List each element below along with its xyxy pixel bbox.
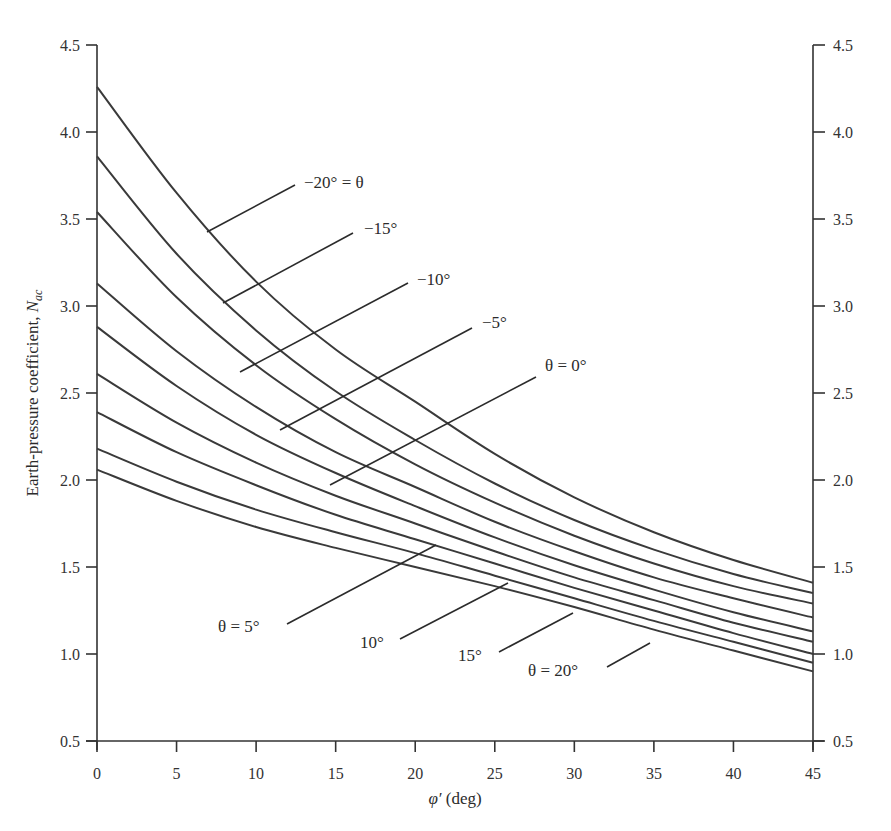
leader-m5: [280, 328, 472, 430]
y-tick-label-left: 2.5: [60, 385, 80, 402]
y-tick-label-right: 3.0: [833, 298, 853, 315]
y-tick-label-left: 4.0: [60, 124, 80, 141]
curve-series-7: [97, 449, 813, 663]
curve-series-6: [97, 412, 813, 654]
curve-series-1: [97, 156, 813, 593]
y-tick-label-right: 4.0: [833, 124, 853, 141]
left-y-ticks: 0.51.01.52.02.53.03.54.04.5: [60, 37, 97, 750]
curve-series-8: [97, 470, 813, 672]
label-theta-m10: −10°: [417, 270, 450, 289]
x-axis-title-symbol: φ′: [428, 789, 441, 808]
curve-group: [97, 87, 813, 672]
x-tick-label: 15: [328, 765, 344, 782]
leader-m10: [240, 283, 408, 372]
x-axis-title: φ′ (deg): [428, 789, 481, 808]
leader-0: [330, 377, 536, 485]
x-tick-label: 40: [725, 765, 741, 782]
y-axis-title-subscript: ac: [31, 289, 45, 301]
y-tick-label-right: 2.5: [833, 385, 853, 402]
y-tick-label-right: 0.5: [833, 733, 853, 750]
curve-series-0: [97, 87, 813, 583]
y-axis-title: Earth-pressure coefficient, Nac: [23, 289, 45, 497]
label-theta-0: θ = 0°: [545, 356, 587, 375]
x-tick-label: 5: [173, 765, 181, 782]
y-tick-label-left: 3.5: [60, 211, 80, 228]
label-theta-m5: −5°: [482, 313, 507, 332]
axes: [86, 45, 824, 750]
leader-10: [400, 583, 508, 639]
x-tick-label: 20: [407, 765, 423, 782]
x-tick-label: 10: [248, 765, 264, 782]
y-tick-label-right: 2.0: [833, 472, 853, 489]
y-tick-label-left: 1.5: [60, 559, 80, 576]
y-tick-label-left: 3.0: [60, 298, 80, 315]
curve-series-3: [97, 283, 813, 617]
earth-pressure-chart: 0.51.01.52.02.53.03.54.04.5 0.51.01.52.0…: [0, 0, 891, 831]
label-theta-10: 10°: [360, 633, 384, 652]
x-axis-title-unit: (deg): [442, 789, 482, 808]
x-tick-label: 45: [805, 765, 821, 782]
label-theta-m15: −15°: [364, 219, 397, 238]
x-ticks: 051015202530354045: [93, 741, 821, 782]
curve-series-5: [97, 374, 813, 642]
y-tick-label-left: 0.5: [60, 733, 80, 750]
y-tick-label-right: 1.0: [833, 646, 853, 663]
y-tick-label-left: 4.5: [60, 37, 80, 54]
label-theta-15: 15°: [458, 646, 482, 665]
y-tick-label-right: 3.5: [833, 211, 853, 228]
curve-series-2: [97, 212, 813, 604]
right-y-ticks: 0.51.01.52.02.53.03.54.04.5: [813, 37, 853, 750]
label-theta-m20: −20° = θ: [304, 173, 364, 192]
x-tick-label: 35: [646, 765, 662, 782]
y-tick-label-left: 1.0: [60, 646, 80, 663]
y-tick-label-right: 1.5: [833, 559, 853, 576]
y-axis-title-text: Earth-pressure coefficient,: [23, 312, 42, 496]
curve-labels: −20° = θ −15° −10° −5° θ = 0° θ = 5° 10°…: [218, 173, 587, 680]
y-tick-label-left: 2.0: [60, 472, 80, 489]
x-tick-label: 0: [93, 765, 101, 782]
x-tick-label: 25: [487, 765, 503, 782]
leader-m20: [207, 185, 295, 232]
label-theta-5: θ = 5°: [218, 617, 260, 636]
leader-20: [607, 643, 650, 667]
x-tick-label: 30: [566, 765, 582, 782]
leader-lines: [207, 185, 650, 667]
y-tick-label-right: 4.5: [833, 37, 853, 54]
label-theta-20: θ = 20°: [528, 661, 578, 680]
leader-15: [499, 613, 573, 652]
leader-5: [287, 545, 436, 624]
